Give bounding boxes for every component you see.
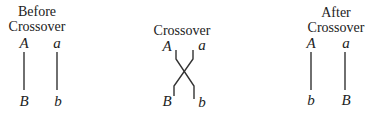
- after-allele-top-right: a: [342, 36, 350, 51]
- before-allele-bottom-right: b: [54, 94, 62, 109]
- after-allele-bottom-right: B: [341, 93, 350, 108]
- crossover-allele-bottom-left: B: [162, 94, 171, 109]
- before-title-line1: Before: [18, 5, 56, 19]
- crossover-chromatid-a-to-B: [174, 50, 193, 96]
- after-allele-top-left: A: [306, 36, 315, 51]
- before-allele-top-right: a: [53, 36, 61, 51]
- before-title-line2: Crossover: [9, 20, 66, 34]
- crossover-chromatid-A-to-b: [176, 50, 194, 99]
- crossover-allele-top-left: A: [162, 39, 171, 54]
- after-title-line1: After: [321, 6, 351, 20]
- after-title-line2: Crossover: [308, 21, 365, 35]
- after-allele-bottom-left: b: [307, 93, 315, 108]
- crossover-allele-bottom-right: b: [198, 95, 206, 110]
- crossover-allele-top-right: a: [198, 38, 206, 53]
- before-allele-bottom-left: B: [19, 94, 28, 109]
- before-allele-top-left: A: [19, 36, 28, 51]
